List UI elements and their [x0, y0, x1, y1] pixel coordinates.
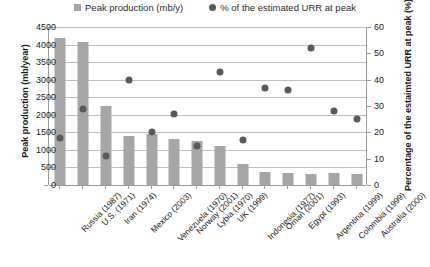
data-point	[80, 105, 87, 112]
x-axis-tick-mark	[128, 185, 129, 189]
y-axis-right-tick-label: 50	[374, 48, 384, 58]
x-axis-tick-mark	[264, 185, 265, 189]
x-axis-tick-mark	[333, 185, 334, 189]
chart-legend: Peak production (mb/y) % of the estimate…	[0, 2, 430, 13]
x-axis-tick-mark	[151, 185, 152, 189]
y-axis-right-tick-mark	[367, 106, 371, 107]
y-axis-left-title: Peak production (mb/year)	[20, 21, 30, 181]
data-point	[194, 142, 201, 149]
y-axis-left-tick-mark	[44, 97, 48, 98]
y-axis-right-tick-label: 0	[374, 180, 379, 190]
y-axis-right-tick-mark	[367, 80, 371, 81]
dot-slot	[300, 27, 323, 185]
data-point	[57, 134, 64, 141]
y-axis-left-tick-mark	[44, 132, 48, 133]
y-axis-left-tick-mark	[44, 185, 48, 186]
y-axis-right-title: Percentage of the estaimted URR at peak …	[403, 11, 413, 191]
plot-area	[48, 27, 367, 185]
y-axis-right-tick-label: 30	[374, 101, 384, 111]
data-point	[102, 153, 109, 160]
dot-slot	[117, 27, 140, 185]
y-axis-right-tick-label: 10	[374, 154, 384, 164]
x-axis-tick-mark	[105, 185, 106, 189]
x-axis-tick-mark	[173, 185, 174, 189]
dot-slot	[254, 27, 277, 185]
data-point	[148, 129, 155, 136]
y-axis-right-tick-mark	[367, 185, 371, 186]
x-axis-tick-mark	[310, 185, 311, 189]
y-axis-right-tick-label: 20	[374, 127, 384, 137]
y-axis-left-tick-label: 0	[51, 180, 56, 190]
data-point	[285, 87, 292, 94]
legend-entry-urr-percentage: % of the estimated URR at peak	[209, 2, 356, 13]
dot-slot	[95, 27, 118, 185]
y-axis-right-tick-mark	[367, 53, 371, 54]
dot-slot	[345, 27, 368, 185]
y-axis-right-tick-mark	[367, 159, 371, 160]
dot-slot	[163, 27, 186, 185]
y-axis-left-tick-mark	[44, 80, 48, 81]
y-axis-left-tick-mark	[44, 115, 48, 116]
legend-label-peak-production: Peak production (mb/y)	[85, 2, 183, 13]
bar-swatch-icon	[74, 4, 81, 11]
gridline	[49, 185, 366, 186]
data-point	[353, 116, 360, 123]
dot-slot	[72, 27, 95, 185]
data-point	[330, 108, 337, 115]
scatter-series-urr-percentage	[49, 27, 366, 185]
y-axis-right-tick-label: 40	[374, 75, 384, 85]
y-axis-left-tick-mark	[44, 27, 48, 28]
x-axis-tick-mark	[287, 185, 288, 189]
x-axis-tick-mark	[59, 185, 60, 189]
dot-slot	[49, 27, 72, 185]
legend-entry-peak-production: Peak production (mb/y)	[74, 2, 183, 13]
data-point	[262, 84, 269, 91]
data-point	[239, 137, 246, 144]
y-axis-right-tick-mark	[367, 27, 371, 28]
dot-slot	[209, 27, 232, 185]
x-axis-tick-mark	[82, 185, 83, 189]
data-point	[216, 68, 223, 75]
dot-slot	[322, 27, 345, 185]
y-axis-left-tick-mark	[44, 167, 48, 168]
data-point	[125, 76, 132, 83]
dot-slot	[140, 27, 163, 185]
legend-label-urr-percentage: % of the estimated URR at peak	[220, 2, 356, 13]
y-axis-left-tick-mark	[44, 150, 48, 151]
dot-slot	[186, 27, 209, 185]
x-axis-tick-mark	[242, 185, 243, 189]
y-axis-right-tick-label: 60	[374, 22, 384, 32]
y-axis-right-tick-mark	[367, 132, 371, 133]
dot-slot	[277, 27, 300, 185]
data-point	[308, 45, 315, 52]
y-axis-left-tick-mark	[44, 45, 48, 46]
y-axis-left-tick-mark	[44, 62, 48, 63]
data-point	[171, 110, 178, 117]
dot-slot	[231, 27, 254, 185]
x-axis-tick-mark	[219, 185, 220, 189]
dot-swatch-icon	[209, 4, 216, 11]
chart-container: Peak production (mb/y) % of the estimate…	[0, 0, 430, 267]
x-axis-tick-mark	[196, 185, 197, 189]
x-axis-tick-mark	[356, 185, 357, 189]
